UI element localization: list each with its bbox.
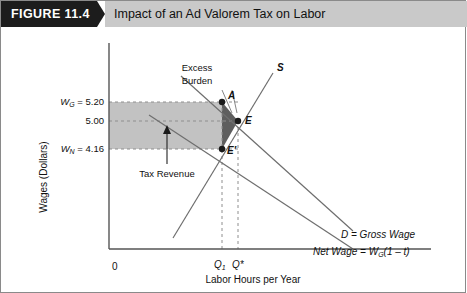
point-e-prime-marker xyxy=(219,146,225,152)
figure-number-label: FIGURE 11.4 xyxy=(1,1,97,27)
point-e-marker xyxy=(235,118,241,124)
net-wage-curve-label: Net Wage = WG(1 – t) xyxy=(313,246,410,258)
figure-title-label: Impact of an Ad Valorem Tax on Labor xyxy=(105,1,467,27)
y-tick-mid: 5.00 xyxy=(86,115,105,126)
y-tick-wg: WG = 5.20 xyxy=(60,96,104,108)
x-tick-q1: Q1 xyxy=(214,259,226,271)
excess-burden-label-line2: Burden xyxy=(182,75,213,86)
point-a-marker xyxy=(219,99,225,105)
supply-curve xyxy=(173,73,273,238)
supply-curve-label: S xyxy=(277,62,284,73)
demand-curve-label: D = Gross Wage xyxy=(341,229,415,240)
x-origin-label: 0 xyxy=(112,261,118,272)
header-notch-decoration xyxy=(97,1,105,27)
figure-header-bar: FIGURE 11.4 Impact of an Ad Valorem Tax … xyxy=(1,1,467,27)
point-e-prime-label: E′ xyxy=(227,145,237,156)
tax-revenue-label: Tax Revenue xyxy=(139,168,194,179)
x-tick-qstar: Q* xyxy=(232,259,245,270)
y-axis-title: Wages (Dollars) xyxy=(38,141,49,212)
chart-plot-area: WG = 5.20 5.00 WN = 4.16 Wages (Dollars)… xyxy=(1,27,467,293)
point-a-label: A xyxy=(227,90,235,101)
excess-burden-label-line1: Excess xyxy=(182,62,213,73)
point-e-label: E xyxy=(245,115,252,126)
chart-svg: WG = 5.20 5.00 WN = 4.16 Wages (Dollars)… xyxy=(1,27,467,293)
y-tick-wn: WN = 4.16 xyxy=(61,143,104,155)
demand-curve-net-wage xyxy=(149,115,353,249)
x-axis-title: Labor Hours per Year xyxy=(205,274,301,285)
